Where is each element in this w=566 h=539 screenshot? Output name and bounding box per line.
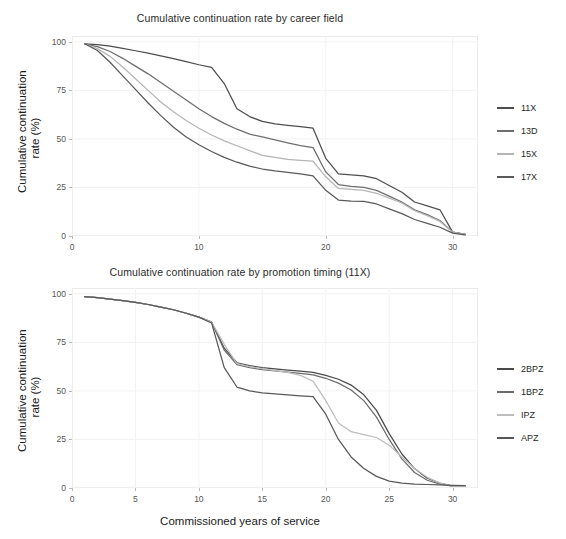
plot-area-bottom [72, 288, 478, 488]
legend-item[interactable]: IPZ [497, 403, 544, 426]
panel-background [72, 288, 478, 488]
chart-panel-promotion-timing: Cumulative continuation rate by promotio… [0, 256, 566, 539]
legend-item-label: 1BPZ [521, 387, 544, 397]
x-tick-label: 30 [440, 494, 466, 504]
legend-line-icon [497, 368, 514, 370]
legend-item-label: APZ [521, 433, 539, 443]
x-tick-mark [453, 236, 454, 239]
legend-line-icon [497, 107, 514, 109]
y-tick-label: 100 [42, 37, 66, 47]
figure-root: Cumulative continuation rate by career f… [0, 0, 566, 539]
legend-item-label: 15X [521, 149, 537, 159]
x-tick-mark [199, 236, 200, 239]
y-axis-label-line2: rate (%) [29, 118, 41, 159]
plot-area-top [72, 36, 478, 236]
y-axis-label-line1: Cumulative continuation [16, 70, 28, 193]
legend-line-icon [497, 130, 514, 132]
x-tick-label: 0 [59, 494, 85, 504]
x-tick-label: 25 [376, 494, 402, 504]
legend-line-icon [497, 414, 514, 416]
chart-panel-career-field: Cumulative continuation rate by career f… [0, 0, 566, 268]
y-tick-label: 25 [42, 434, 66, 444]
y-tick-label: 0 [42, 231, 66, 241]
x-tick-label: 5 [122, 494, 148, 504]
x-tick-mark [389, 488, 390, 491]
y-tick-label: 75 [42, 85, 66, 95]
legend-item-label: 11X [521, 103, 536, 113]
chart-title-bottom: Cumulative continuation rate by promotio… [0, 266, 480, 278]
x-tick-label: 10 [186, 242, 212, 252]
legend-item[interactable]: 15X [497, 142, 538, 165]
legend-item[interactable]: 2BPZ [497, 357, 544, 380]
legend-item-label: 13D [521, 126, 538, 136]
y-axis-label-line1: Cumulative continuation [16, 329, 28, 452]
x-tick-mark [326, 488, 327, 491]
x-tick-mark [262, 488, 263, 491]
chart-title-top: Cumulative continuation rate by career f… [0, 12, 480, 24]
legend-bottom: 2BPZ1BPZIPZAPZ [497, 357, 544, 449]
legend-item[interactable]: APZ [497, 426, 544, 449]
y-axis-label-top: Cumulative continuation rate (%) [16, 83, 42, 193]
x-tick-label: 20 [313, 494, 339, 504]
y-axis-label-bottom: Cumulative continuation rate (%) [16, 342, 42, 452]
legend-line-icon [497, 391, 514, 393]
x-tick-mark [135, 488, 136, 491]
x-tick-mark [199, 488, 200, 491]
y-tick-label: 0 [42, 483, 66, 493]
y-tick-label: 25 [42, 182, 66, 192]
legend-item-label: 17X [521, 172, 537, 182]
x-tick-label: 30 [440, 242, 466, 252]
y-tick-label: 50 [42, 386, 66, 396]
x-tick-mark [72, 236, 73, 239]
y-tick-label: 100 [42, 289, 66, 299]
legend-line-icon [497, 153, 514, 155]
legend-item[interactable]: 17X [497, 165, 538, 188]
x-axis-label: Commissioned years of service [0, 515, 480, 527]
legend-item[interactable]: 1BPZ [497, 380, 544, 403]
x-tick-mark [72, 488, 73, 491]
y-axis-label-line2: rate (%) [29, 377, 41, 418]
legend-line-icon [497, 176, 514, 178]
x-tick-label: 15 [249, 494, 275, 504]
legend-item[interactable]: 11X [497, 96, 538, 119]
x-tick-mark [326, 236, 327, 239]
x-tick-label: 10 [186, 494, 212, 504]
legend-item[interactable]: 13D [497, 119, 538, 142]
y-tick-label: 50 [42, 134, 66, 144]
plot-svg-bottom [72, 288, 478, 488]
legend-line-icon [497, 437, 514, 439]
x-tick-label: 20 [313, 242, 339, 252]
panel-background [72, 36, 478, 236]
y-tick-label: 75 [42, 337, 66, 347]
x-tick-mark [453, 488, 454, 491]
plot-svg-top [72, 36, 478, 236]
legend-item-label: IPZ [521, 410, 535, 420]
legend-top: 11X13D15X17X [497, 96, 538, 188]
x-tick-label: 0 [59, 242, 85, 252]
legend-item-label: 2BPZ [521, 364, 544, 374]
